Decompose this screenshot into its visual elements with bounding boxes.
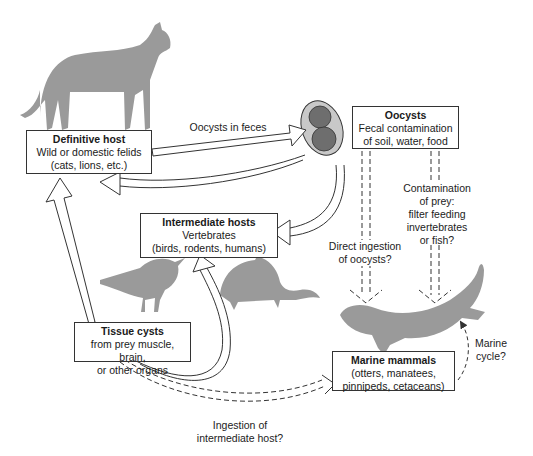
otter-silhouette-icon xyxy=(340,264,485,355)
tissue-cysts-line1: from prey muscle, brain, xyxy=(78,338,187,364)
definitive-host-line2: (cats, lions, etc.) xyxy=(30,159,148,172)
direct-ingestion-line1: Direct ingestion xyxy=(325,240,405,253)
intermediate-hosts-line1: Vertebrates xyxy=(144,229,274,242)
definitive-host-line1: Wild or domestic felids xyxy=(30,146,148,159)
oocysts-box: Oocysts Fecal contamination of soil, wat… xyxy=(352,106,459,149)
oocysts-line2: of soil, water, food xyxy=(356,135,455,148)
marine-cycle-line2: cycle? xyxy=(468,350,514,363)
contamination-prey-line2: of prey: xyxy=(395,195,479,208)
marine-mammals-line2: pinnipeds, cetaceans) xyxy=(336,380,451,393)
contamination-prey-line3: filter feeding xyxy=(395,208,479,221)
oocyst-icon xyxy=(294,95,351,161)
direct-ingestion-line2: of oocysts? xyxy=(325,253,405,266)
bird-silhouette-icon xyxy=(100,258,185,312)
marine-cycle-label: Marine cycle? xyxy=(468,337,514,363)
marine-mammals-line1: (otters, manatees, xyxy=(336,367,451,380)
definitive-host-box: Definitive host Wild or domestic felids … xyxy=(26,130,152,174)
ingestion-intermediate-label: Ingestion of intermediate host? xyxy=(190,419,290,445)
arrow-direct-ingestion xyxy=(350,151,382,303)
contamination-prey-line4: invertebrates xyxy=(395,221,479,234)
intermediate-hosts-box: Intermediate hosts Vertebrates (birds, r… xyxy=(140,213,278,258)
arrow-tissue-to-host xyxy=(46,178,95,324)
arrow-marine-cycle xyxy=(458,324,468,380)
marine-mammals-title: Marine mammals xyxy=(336,354,451,367)
contamination-prey-line1: Contamination xyxy=(395,182,479,195)
contamination-prey-label: Contamination of prey: filter feeding in… xyxy=(395,182,479,247)
marine-cycle-line1: Marine xyxy=(468,337,514,350)
ingestion-intermediate-line1: Ingestion of xyxy=(190,419,290,432)
oocysts-line1: Fecal contamination xyxy=(356,122,455,135)
oocysts-in-feces-label: Oocysts in feces xyxy=(178,121,278,134)
oocysts-in-feces-text: Oocysts in feces xyxy=(189,121,266,133)
tissue-cysts-line2: or other organs xyxy=(78,364,187,377)
direct-ingestion-label: Direct ingestion of oocysts? xyxy=(325,240,405,266)
oocysts-title: Oocysts xyxy=(356,109,455,122)
intermediate-hosts-line2: (birds, rodents, humans) xyxy=(144,242,274,255)
intermediate-hosts-title: Intermediate hosts xyxy=(144,216,274,229)
ingestion-intermediate-line2: intermediate host? xyxy=(190,432,290,445)
marine-mammals-box: Marine mammals (otters, manatees, pinnip… xyxy=(332,351,455,391)
tissue-cysts-title: Tissue cysts xyxy=(78,325,187,338)
arrow-oocysts-to-intermediate xyxy=(272,165,344,245)
cat-silhouette-icon xyxy=(20,22,171,130)
contamination-prey-line5: or fish? xyxy=(395,234,479,247)
tissue-cysts-box: Tissue cysts from prey muscle, brain, or… xyxy=(74,322,191,362)
definitive-host-title: Definitive host xyxy=(30,133,148,146)
rat-silhouette-icon xyxy=(220,254,320,310)
